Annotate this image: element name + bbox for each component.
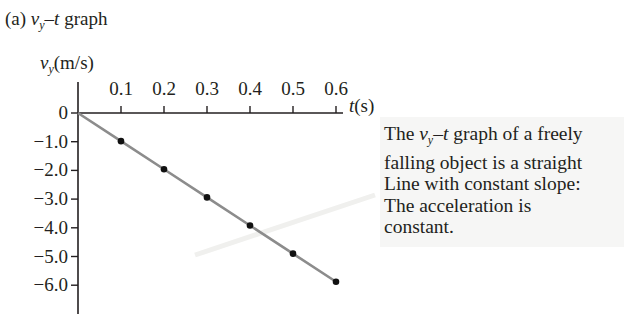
annotation-line: The acceleration is [384, 195, 624, 217]
data-point [204, 194, 211, 201]
annotation-box: The vy–t graph of a freely falling objec… [380, 117, 624, 247]
annotation-line: falling object is a straight [384, 152, 624, 174]
data-point [247, 222, 254, 229]
annotation-line: Line with constant slope: [384, 173, 624, 195]
data-point [161, 166, 168, 173]
data-point [118, 138, 125, 145]
data-point [333, 278, 340, 285]
annotation-line: The vy–t graph of a freely [384, 123, 624, 152]
annotation-line: constant. [384, 216, 624, 238]
data-series [78, 113, 339, 285]
data-point [290, 250, 297, 257]
annotation-pointer [195, 195, 375, 255]
